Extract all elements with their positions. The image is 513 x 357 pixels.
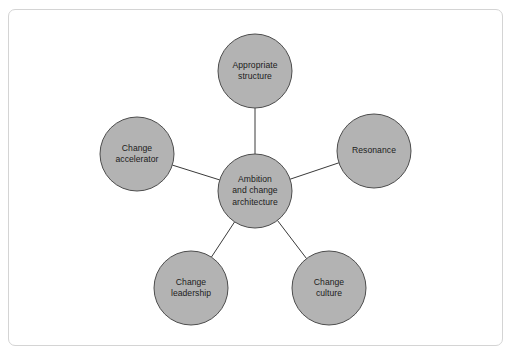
spoke-node-change-leadership[interactable] [154,251,228,325]
hub-and-spoke-diagram [0,0,513,357]
spoke-node-resonance[interactable] [337,114,411,188]
connector-change-accelerator [172,165,219,180]
connector-resonance [290,163,339,179]
node-layer [100,34,411,325]
connector-change-leadership [211,222,234,257]
spoke-node-change-accelerator[interactable] [100,117,174,191]
spoke-node-appropriate-structure[interactable] [218,34,292,108]
center-node-center[interactable] [218,154,292,228]
connector-change-culture [277,220,306,258]
diagram-canvas: Appropriate structureResonanceChange cul… [0,0,513,357]
spoke-node-change-culture[interactable] [292,251,366,325]
